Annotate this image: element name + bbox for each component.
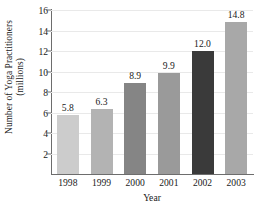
bar[interactable] (225, 22, 247, 174)
bar[interactable] (158, 73, 180, 174)
bar[interactable] (91, 109, 113, 174)
bars-layer: 5.86.38.99.912.014.8 (51, 10, 253, 174)
y-axis-tick-mark (46, 10, 51, 11)
y-axis-title-line-1: Number of Yoga Practitioners (4, 7, 15, 147)
x-axis-tick-label: 1998 (58, 177, 77, 188)
y-axis-tick-mark (46, 71, 51, 72)
x-axis-tick-label: 2001 (159, 177, 178, 188)
y-axis-title-line-2: (millions) (15, 7, 26, 147)
x-axis-tick-label: 2003 (227, 177, 246, 188)
plot-area: 5.86.38.99.912.014.8 (51, 10, 253, 174)
bar-value-label: 6.3 (96, 96, 108, 107)
x-axis-tick-labels: 199819992000200120022003 (51, 177, 253, 191)
y-axis-tick-mark (46, 153, 51, 154)
bar-value-label: 8.9 (129, 70, 141, 81)
bar[interactable] (124, 83, 146, 174)
x-axis-title: Year (51, 192, 253, 203)
bar[interactable] (57, 115, 79, 174)
y-axis-tick-mark (46, 51, 51, 52)
x-axis-tick-label: 2002 (193, 177, 212, 188)
y-axis-tick-mark (46, 92, 51, 93)
bar-value-label: 14.8 (228, 9, 245, 20)
y-axis-tick-mark (46, 30, 51, 31)
bar-value-label: 9.9 (163, 60, 175, 71)
y-axis-tick-labels: 246810121416 (28, 10, 48, 174)
bar-chart-figure: Number of Yoga Practitioners (millions) … (0, 0, 262, 217)
x-axis-tick-label: 2000 (126, 177, 145, 188)
bar-value-label: 5.8 (62, 102, 74, 113)
bar[interactable] (192, 51, 214, 174)
bar-value-label: 12.0 (194, 38, 211, 49)
x-axis-tick-label: 1999 (92, 177, 111, 188)
x-axis-line (51, 174, 254, 175)
y-axis-tick-mark (46, 133, 51, 134)
y-axis-tick-mark (46, 112, 51, 113)
